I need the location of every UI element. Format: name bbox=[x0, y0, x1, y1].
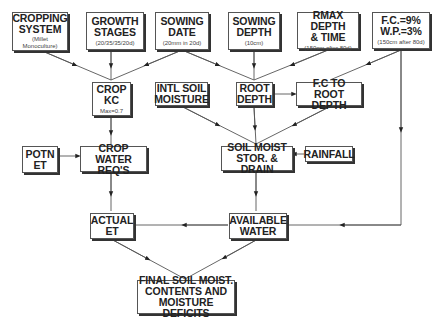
node-title: RMAX DEPTH bbox=[298, 10, 358, 32]
node-title: SYSTEM bbox=[19, 24, 62, 35]
node-crop-water-reqs: CROP WATER REQ'S bbox=[80, 146, 147, 172]
node-title: CROP WATER bbox=[81, 143, 146, 165]
node-growth-stages: GROWTH STAGES (20/35/35/20d) bbox=[86, 12, 144, 50]
node-title: & TIME bbox=[311, 32, 346, 43]
node-cropping-system: CROPPING SYSTEM (Millet Monoculture) bbox=[12, 12, 68, 51]
node-subtitle: (150cm after 80d) bbox=[377, 39, 424, 46]
node-crop-kc: CROP KC Max=0.7 bbox=[92, 82, 131, 116]
node-subtitle: (20/35/35/20d) bbox=[95, 40, 134, 47]
node-intl-soil-moisture: INTL SOIL MOISTURE bbox=[155, 82, 208, 106]
node-potn-et: POTN ET bbox=[22, 146, 58, 173]
node-title: STAGES bbox=[94, 27, 136, 38]
node-title: GROWTH bbox=[91, 16, 138, 27]
node-title: REQ'S bbox=[98, 165, 130, 176]
node-title: RAINFALL bbox=[303, 149, 354, 160]
node-title: F.C TO bbox=[313, 78, 345, 89]
node-subtitle: (Millet bbox=[32, 36, 48, 43]
node-title: ET bbox=[105, 226, 118, 237]
node-actual-et: ACTUAL ET bbox=[90, 213, 134, 239]
node-subtitle: (20mm in 20d) bbox=[163, 40, 202, 47]
node-title: WATER bbox=[240, 226, 277, 237]
node-subtitle: Monoculture) bbox=[22, 43, 57, 50]
node-subtitle: Max=0.7 bbox=[100, 108, 123, 115]
node-title: DATE bbox=[168, 27, 195, 38]
node-title: MOISTURE DEFICITS bbox=[138, 297, 234, 319]
node-title: DEPTH bbox=[237, 94, 272, 105]
node-title: KC bbox=[104, 95, 119, 106]
node-fc-wp: F.C.=9% W.P.=3% (150cm after 80d) bbox=[372, 12, 430, 49]
node-title: SOWING bbox=[232, 16, 275, 27]
node-fc-to-root-depth: F.C TO ROOT DEPTH bbox=[296, 82, 362, 106]
node-title: POTN bbox=[26, 149, 55, 160]
node-title: ROOT DEPTH bbox=[297, 89, 361, 111]
node-title: CROP bbox=[97, 84, 127, 95]
node-subtitle: (150cm after 80d) bbox=[304, 45, 351, 52]
node-title: STOR. & DRAIN bbox=[222, 153, 292, 175]
node-subtitle: (10cm) bbox=[245, 40, 264, 47]
node-final-soil: FINAL SOIL MOIST. CONTENTS AND MOISTURE … bbox=[137, 280, 235, 314]
node-sowing-depth: SOWING DEPTH (10cm) bbox=[228, 12, 280, 50]
node-rainfall: RAINFALL bbox=[305, 146, 353, 162]
node-available-water: AVAILABLE WATER bbox=[229, 213, 287, 239]
node-sowing-date: SOWING DATE (20mm in 20d) bbox=[155, 12, 209, 50]
node-title: SOWING bbox=[160, 16, 203, 27]
node-rmax-depth: RMAX DEPTH & TIME (150cm after 80d) bbox=[297, 12, 359, 49]
node-soil-moist-stor: SOIL MOIST STOR. & DRAIN bbox=[221, 146, 293, 171]
node-title: W.P.=3% bbox=[380, 26, 421, 37]
node-title: ET bbox=[33, 160, 46, 171]
node-title: DEPTH bbox=[236, 27, 271, 38]
node-root-depth: ROOT DEPTH bbox=[236, 82, 273, 106]
node-title: MOISTURE bbox=[154, 94, 209, 105]
